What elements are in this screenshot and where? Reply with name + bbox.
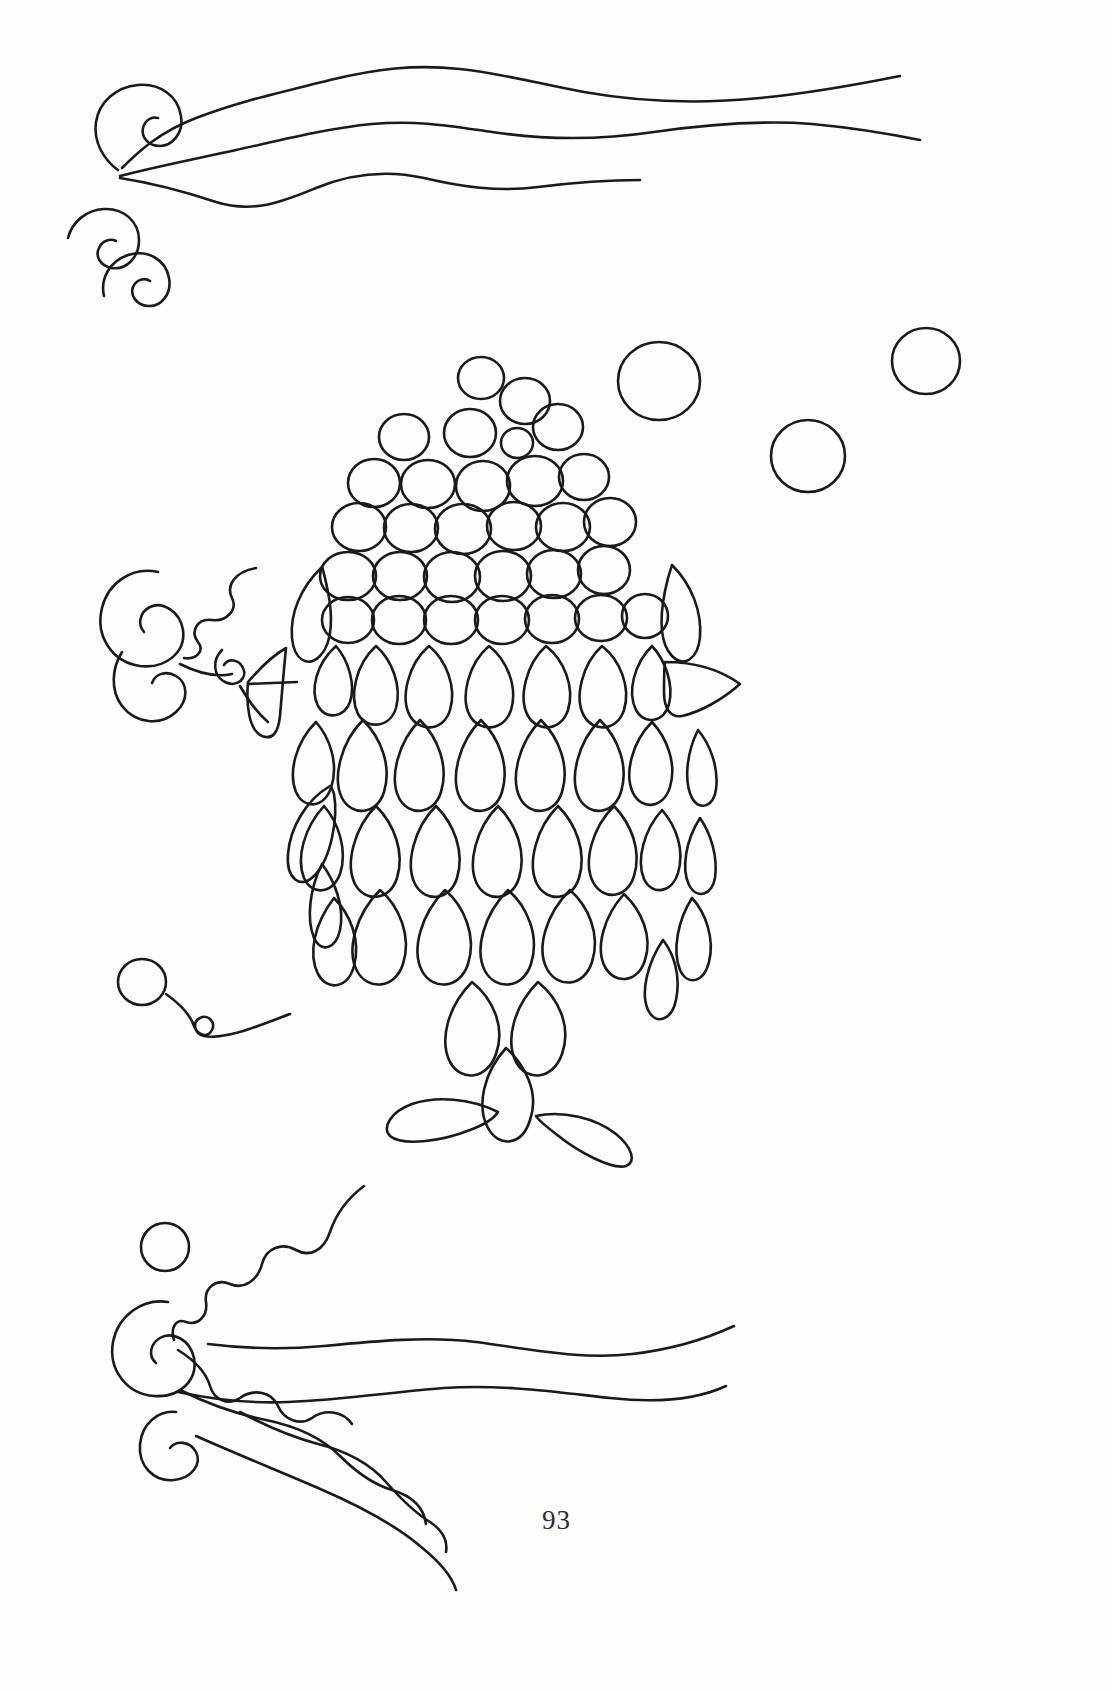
bubble-large-2 <box>892 328 960 394</box>
petal-side-right-mid <box>645 898 711 1019</box>
petal-row-1 <box>315 646 671 727</box>
bubble-small-left-2 <box>141 1223 189 1271</box>
tail-fin-left[interactable] <box>387 1099 498 1141</box>
page-number: 93 <box>0 1505 1113 1536</box>
wave-top-2 <box>120 122 920 176</box>
bubble-small-left-1 <box>118 959 166 1005</box>
squiggle-mid-left <box>180 568 268 722</box>
scroll-top-left-1 <box>96 85 182 170</box>
scroll-bottom-left-2 <box>140 1412 198 1480</box>
tail-fin-right[interactable] <box>536 1114 632 1167</box>
wave-bottom-3 <box>178 1386 726 1402</box>
left-pectoral-fin[interactable] <box>247 648 297 737</box>
wave-top-3 <box>120 174 640 207</box>
wave-bottom-1 <box>173 1186 364 1340</box>
pattern-page: 93 decorative fish <box>0 0 1113 1690</box>
wave-top-1 <box>122 67 900 168</box>
squiggle-near-bubble <box>166 994 290 1037</box>
petal-row-3 <box>301 806 716 897</box>
petal-row-6 <box>482 1048 533 1141</box>
scroll-top-left-2 <box>68 209 139 268</box>
fish-side-scale-left-upper <box>292 567 331 662</box>
bubble-large-1 <box>618 342 700 420</box>
wave-bottom-2 <box>178 1326 734 1424</box>
right-pectoral-fin[interactable] <box>664 662 740 716</box>
bubble-large-3 <box>771 420 845 492</box>
scroll-mid-left-1 <box>100 571 183 667</box>
scroll-bottom-left-1 <box>112 1301 194 1396</box>
scroll-top-left-3 <box>103 253 169 306</box>
petal-side-left-mid <box>288 786 341 947</box>
petal-row-5 <box>445 982 565 1075</box>
fish-scale-circles <box>320 357 668 644</box>
petal-row-4 <box>313 890 647 985</box>
fish-pattern-artwork <box>0 0 1113 1690</box>
petal-row-2 <box>293 720 717 811</box>
